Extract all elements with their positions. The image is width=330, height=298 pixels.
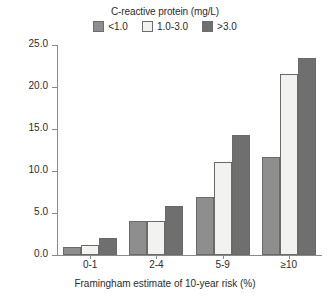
- legend-entry-crp-high: >3.0: [202, 21, 237, 32]
- bar: [214, 162, 232, 255]
- y-axis-tick-label: 5.0: [34, 206, 48, 218]
- bar-group: [123, 45, 189, 255]
- x-axis-line: [57, 255, 322, 256]
- x-axis-tick-label: 2-4: [126, 259, 186, 271]
- bar: [147, 221, 165, 255]
- bar-chart-figure: C-reactive protein (mg/L) <1.0 1.0-3.0 >…: [0, 0, 330, 298]
- legend-label-crp-mid: 1.0-3.0: [157, 21, 188, 32]
- bar-group: [190, 45, 256, 255]
- y-axis-tick-label: 25.0: [29, 38, 48, 50]
- bar-group: [57, 45, 123, 255]
- bar: [232, 135, 250, 255]
- x-axis-tick-label: ≥10: [259, 259, 319, 271]
- legend-entry-crp-mid: 1.0-3.0: [142, 21, 188, 32]
- bar: [165, 206, 183, 255]
- bar: [280, 74, 298, 255]
- plot-area: 0.05.010.015.020.025.0 0-12-45-9≥10: [57, 45, 322, 255]
- y-axis-tick-label: 15.0: [29, 122, 48, 134]
- bar-groups: [57, 45, 322, 255]
- legend-label-crp-low: <1.0: [108, 21, 128, 32]
- bar: [63, 247, 81, 255]
- legend-swatch-crp-high: [202, 21, 213, 32]
- bar: [262, 157, 280, 255]
- x-axis-tick-label: 0-1: [60, 259, 120, 271]
- legend-label-crp-high: >3.0: [217, 21, 237, 32]
- legend-title: C-reactive protein (mg/L): [0, 6, 330, 18]
- bar: [99, 238, 117, 255]
- bar: [196, 197, 214, 255]
- y-axis-tick-label: 0.0: [34, 248, 48, 260]
- legend-swatch-crp-mid: [142, 21, 153, 32]
- bar: [129, 221, 147, 255]
- x-axis-title: Framingham estimate of 10-year risk (%): [0, 278, 330, 290]
- x-axis-tick-label: 5-9: [193, 259, 253, 271]
- bar: [298, 58, 316, 255]
- legend-swatch-crp-low: [93, 21, 104, 32]
- y-axis-tick: 0.0: [52, 255, 57, 256]
- bar: [81, 245, 99, 255]
- chart-legend: C-reactive protein (mg/L) <1.0 1.0-3.0 >…: [0, 6, 330, 32]
- legend-entries: <1.0 1.0-3.0 >3.0: [0, 21, 330, 32]
- y-axis-tick-label: 10.0: [29, 164, 48, 176]
- bar-group: [256, 45, 322, 255]
- y-axis-tick-label: 20.0: [29, 80, 48, 92]
- legend-entry-crp-low: <1.0: [93, 21, 128, 32]
